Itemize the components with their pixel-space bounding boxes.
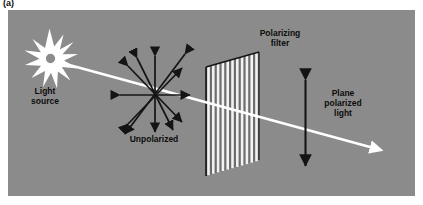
label-polarizing-filter: Polarizing filter: [241, 28, 319, 48]
figure-root: (a): [0, 0, 423, 205]
label-unpolarized: Unpolarized: [108, 134, 200, 144]
light-source-star: [25, 29, 79, 89]
label-plane-polarized-light: Plane polarized light: [313, 88, 373, 118]
label-light-source: Light source: [14, 86, 76, 106]
